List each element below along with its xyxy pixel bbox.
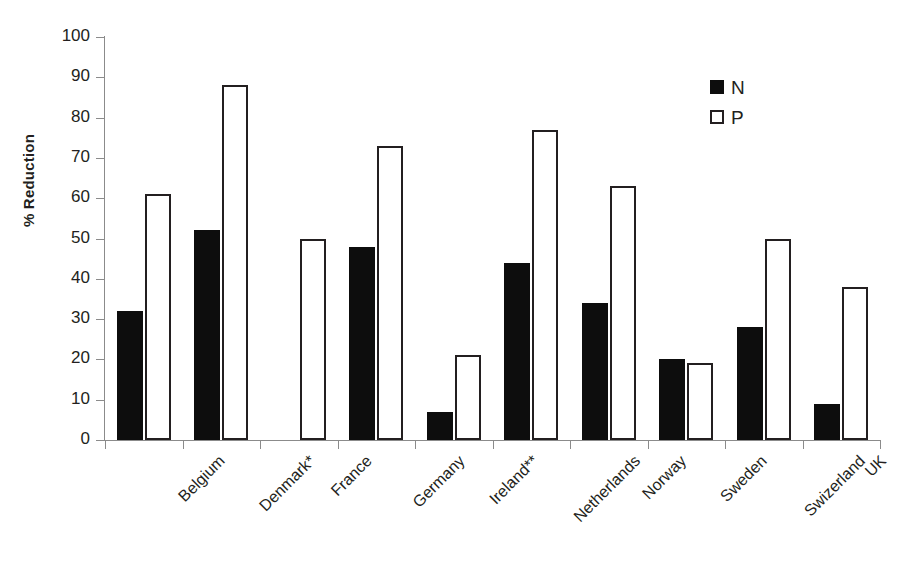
- bar-p: [765, 239, 791, 441]
- x-axis-category-label: Germany: [410, 452, 469, 511]
- bar-p: [222, 85, 248, 440]
- y-axis-title: % Reduction: [20, 101, 37, 261]
- y-axis-tick: 50: [96, 239, 105, 240]
- bar-p: [532, 130, 558, 440]
- legend-swatch-p-icon: [710, 110, 724, 124]
- y-axis-tick: 30: [96, 319, 105, 320]
- x-axis-category-label: Ireland**: [486, 452, 542, 508]
- bar-n: [659, 359, 685, 440]
- bar-p: [300, 239, 326, 441]
- y-axis-tick-label: 30: [71, 308, 90, 328]
- x-axis-tick: [338, 440, 339, 449]
- x-axis-tick: [648, 440, 649, 449]
- legend-item-p: P: [710, 102, 800, 132]
- x-axis-tick: [570, 440, 571, 449]
- y-axis-tick-label: 10: [71, 389, 90, 409]
- bar-p: [610, 186, 636, 440]
- legend-label-p: P: [731, 108, 744, 127]
- bar-n: [582, 303, 608, 440]
- bar-group: [105, 37, 183, 440]
- bar-group: [338, 37, 416, 440]
- y-axis-tick: 10: [96, 400, 105, 401]
- x-axis-category-label: UK: [862, 452, 890, 480]
- bar-group: [260, 37, 338, 440]
- x-axis-category-label: Sweden: [717, 452, 771, 506]
- bar-p: [377, 146, 403, 440]
- legend-swatch-n-icon: [710, 80, 724, 94]
- y-axis-tick-label: 20: [71, 348, 90, 368]
- bar-n: [349, 247, 375, 440]
- bar-chart: % Reduction 0102030405060708090100 Belgi…: [0, 0, 906, 566]
- x-axis-category-label: Belgium: [175, 452, 229, 506]
- bar-n: [194, 230, 220, 440]
- bar-group: [803, 37, 881, 440]
- y-axis-tick-label: 60: [71, 187, 90, 207]
- y-axis-tick-label: 50: [71, 228, 90, 248]
- x-axis-tick: [725, 440, 726, 449]
- y-axis-tick-label: 90: [71, 66, 90, 86]
- legend-item-n: N: [710, 72, 800, 102]
- bar-group: [570, 37, 648, 440]
- bar-p: [687, 363, 713, 440]
- y-axis-tick: 60: [96, 198, 105, 199]
- bar-p: [455, 355, 481, 440]
- x-axis-category-label: Denmark*: [256, 452, 319, 515]
- x-axis-tick: [105, 440, 106, 449]
- bar-n: [427, 412, 453, 440]
- bar-group: [415, 37, 493, 440]
- x-axis-category-label: France: [327, 452, 375, 500]
- x-axis-tick: [880, 440, 881, 449]
- x-axis-tick: [803, 440, 804, 449]
- bar-n: [814, 404, 840, 440]
- bar-p: [145, 194, 171, 440]
- bar-group: [493, 37, 571, 440]
- bar-n: [117, 311, 143, 440]
- y-axis-tick: 40: [96, 279, 105, 280]
- y-axis-tick-label: 70: [71, 147, 90, 167]
- y-axis-tick: 90: [96, 77, 105, 78]
- bar-n: [504, 263, 530, 440]
- chart-legend: N P: [710, 72, 800, 132]
- y-axis-tick-label: 0: [81, 429, 90, 449]
- y-axis-tick: 100: [96, 37, 105, 38]
- x-axis-tick: [183, 440, 184, 449]
- x-axis-tick: [260, 440, 261, 449]
- legend-label-n: N: [731, 78, 745, 97]
- bar-group: [183, 37, 261, 440]
- bar-n: [737, 327, 763, 440]
- y-axis-tick-label: 80: [71, 107, 90, 127]
- x-axis-tick: [493, 440, 494, 449]
- x-axis-category-label: Swizerland: [801, 452, 869, 520]
- y-axis-tick-label: 100: [62, 26, 90, 46]
- y-axis-tick-label: 40: [71, 268, 90, 288]
- x-axis-category-label: Norway: [639, 452, 690, 503]
- y-axis-tick: 80: [96, 118, 105, 119]
- y-axis-tick: 70: [96, 158, 105, 159]
- bar-p: [842, 287, 868, 440]
- y-axis-tick: 0: [96, 440, 105, 441]
- x-axis-category-label: Netherlands: [571, 452, 645, 526]
- y-axis-tick: 20: [96, 359, 105, 360]
- x-axis-tick: [415, 440, 416, 449]
